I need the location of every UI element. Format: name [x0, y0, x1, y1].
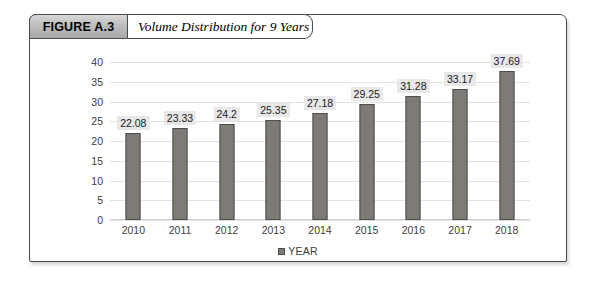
y-axis-tick-label: 20 — [91, 135, 103, 147]
bar-group: 24.2 — [203, 62, 250, 220]
chart-legend: YEAR — [29, 245, 567, 257]
y-axis-tick-label: 15 — [91, 155, 103, 167]
y-axis-tick-label: 40 — [91, 56, 103, 68]
figure-number-tab: FIGURE A.3 — [29, 14, 128, 39]
bar-group: 37.69 — [483, 62, 530, 220]
x-axis-tick-label: 2012 — [203, 224, 250, 236]
bar-group: 23.33 — [157, 62, 204, 220]
y-axis-tick-label: 35 — [91, 76, 103, 88]
bar-group: 25.35 — [250, 62, 297, 220]
figure-title-tab: Volume Distribution for 9 Years — [128, 14, 313, 39]
bar-value-label: 24.2 — [213, 107, 239, 121]
figure-caption-bar: FIGURE A.3 Volume Distribution for 9 Yea… — [29, 14, 313, 39]
bar[interactable] — [499, 71, 514, 220]
x-axis-tick-label: 2010 — [110, 224, 157, 236]
bar-group: 22.08 — [110, 62, 157, 220]
bar[interactable] — [406, 96, 421, 220]
bar[interactable] — [453, 89, 468, 220]
y-axis-tick-label: 0 — [97, 214, 103, 226]
bar-group: 33.17 — [437, 62, 484, 220]
x-axis-tick-label: 2015 — [343, 224, 390, 236]
gridline — [110, 220, 530, 221]
x-axis-ticks: 201020112012201320142015201620172018 — [110, 224, 530, 236]
bar[interactable] — [173, 128, 188, 220]
bar-value-label: 29.25 — [351, 87, 383, 101]
x-axis-tick-label: 2013 — [250, 224, 297, 236]
legend-label-year: YEAR — [288, 245, 317, 257]
bar-group: 27.18 — [297, 62, 344, 220]
y-axis-tick-label: 5 — [97, 194, 103, 206]
bar-value-label: 31.28 — [397, 79, 429, 93]
figure-title-text: Volume Distribution for 9 Years — [138, 19, 309, 35]
bar-value-label: 27.18 — [304, 96, 336, 110]
bar-value-label: 25.35 — [257, 103, 289, 117]
y-axis-tick-label: 30 — [91, 96, 103, 108]
figure-number-label: FIGURE A.3 — [43, 20, 115, 34]
bar-group: 31.28 — [390, 62, 437, 220]
y-axis-tick-label: 10 — [91, 175, 103, 187]
bar-group: 29.25 — [343, 62, 390, 220]
bar-value-label: 37.69 — [491, 54, 523, 68]
legend-swatch-icon — [278, 248, 285, 255]
bar[interactable] — [313, 113, 328, 220]
bar[interactable] — [219, 124, 234, 220]
plot-area: 0510152025303540 22.0823.3324.225.3527.1… — [110, 62, 530, 220]
bar[interactable] — [359, 104, 374, 220]
bar[interactable] — [126, 133, 141, 220]
bar-value-label: 22.08 — [117, 116, 149, 130]
bar-value-label: 23.33 — [164, 111, 196, 125]
x-axis-tick-label: 2018 — [483, 224, 530, 236]
y-axis-tick-label: 25 — [91, 115, 103, 127]
bar-value-label: 33.17 — [444, 72, 476, 86]
x-axis-tick-label: 2011 — [157, 224, 204, 236]
chart-area: 0510152025303540 22.0823.3324.225.3527.1… — [29, 39, 567, 262]
x-axis-tick-label: 2014 — [297, 224, 344, 236]
x-axis-tick-label: 2016 — [390, 224, 437, 236]
x-axis-tick-label: 2017 — [437, 224, 484, 236]
bar[interactable] — [266, 120, 281, 220]
bar-series-year: 22.0823.3324.225.3527.1829.2531.2833.173… — [110, 62, 530, 220]
